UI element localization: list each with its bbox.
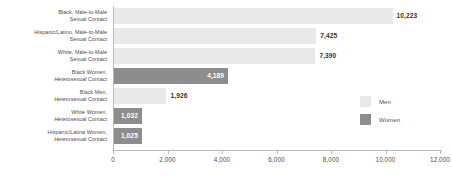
bar-value-label: 1,926 [170, 88, 187, 104]
category-label-line2: Sexual Contact [0, 56, 107, 63]
category-label-line1: Hispanic/Latina Women, [0, 129, 107, 136]
x-tick-mark [222, 150, 223, 154]
bar-value-label: 4,189 [207, 68, 224, 84]
category-label-line1: White, Male-to-Male [0, 49, 107, 56]
bar-value-label: 7,425 [320, 28, 337, 44]
bar-men[interactable] [114, 28, 316, 44]
legend-item-women[interactable]: Women [360, 114, 400, 125]
category-label: Hispanic/Latina Women,Heterosexual Conta… [0, 129, 107, 142]
x-tick-mark [440, 150, 441, 154]
category-label: Black Women,Heterosexual Contact [0, 69, 107, 82]
category-label-line1: Black Men, [0, 89, 107, 96]
bar-row: Black, Male-to-MaleSexual Contact10,223 [0, 6, 452, 26]
bar-row: Hispanic/Latino, Male-to-MaleSexual Cont… [0, 26, 452, 46]
legend-label-women: Women [379, 117, 400, 123]
x-tick-label: 4,000 [192, 156, 252, 163]
category-label-line2: Sexual Contact [0, 36, 107, 43]
x-tick-mark [331, 150, 332, 154]
x-tick-label: 6,000 [247, 156, 307, 163]
category-label: Black, Male-to-MaleSexual Contact [0, 9, 107, 22]
category-label-line1: Hispanic/Latino, Male-to-Male [0, 29, 107, 36]
bar-value-label: 1,025 [121, 128, 138, 144]
category-label: Hispanic/Latino, Male-to-MaleSexual Cont… [0, 29, 107, 42]
bar-row: Black Women,Heterosexual Contact4,189 [0, 66, 452, 86]
x-tick-label: 2,000 [138, 156, 198, 163]
category-label-line2: Heterosexual Contact [0, 96, 107, 103]
legend-label-men: Men [379, 99, 391, 105]
bar-row: White, Male-to-MaleSexual Contact7,390 [0, 46, 452, 66]
category-label-line2: Sexual Contact [0, 16, 107, 23]
category-label-line2: Heterosexual Contact [0, 136, 107, 143]
legend-item-men[interactable]: Men [360, 96, 391, 107]
x-tick-label: 12,000 [410, 156, 452, 163]
category-label: White Women,Heterosexual Contact [0, 109, 107, 122]
category-label-line2: Heterosexual Contact [0, 76, 107, 83]
category-label: White, Male-to-MaleSexual Contact [0, 49, 107, 62]
x-tick-mark [386, 150, 387, 154]
bar-men[interactable] [114, 48, 315, 64]
x-axis-line [113, 150, 442, 151]
bar-row: Hispanic/Latina Women,Heterosexual Conta… [0, 126, 452, 146]
x-tick-label: 10,000 [356, 156, 416, 163]
bar-men[interactable] [114, 88, 166, 104]
legend-swatch-men-icon [360, 96, 371, 107]
category-label-line2: Heterosexual Contact [0, 116, 107, 123]
x-tick-mark [277, 150, 278, 154]
bar-chart: Black, Male-to-MaleSexual Contact10,223H… [0, 0, 452, 178]
category-label: Black Men,Heterosexual Contact [0, 89, 107, 102]
x-tick-label: 0 [83, 156, 143, 163]
bar-value-label: 7,390 [319, 48, 336, 64]
category-label-line1: Black, Male-to-Male [0, 9, 107, 16]
bar-men[interactable] [114, 8, 393, 24]
x-tick-label: 8,000 [301, 156, 361, 163]
category-label-line1: Black Women, [0, 69, 107, 76]
bar-value-label: 10,223 [397, 8, 418, 24]
category-label-line1: White Women, [0, 109, 107, 116]
x-tick-mark [168, 150, 169, 154]
legend-swatch-women-icon [360, 114, 371, 125]
x-tick-mark [113, 150, 114, 154]
bar-value-label: 1,032 [121, 108, 138, 124]
